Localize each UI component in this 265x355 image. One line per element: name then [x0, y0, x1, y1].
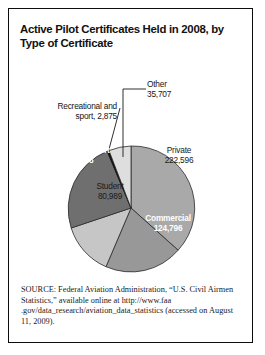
slice-label-airline-transport: Airline transport 146,838 — [33, 145, 125, 165]
pie-chart-svg — [9, 61, 251, 276]
page-title: Active Pilot Certificates Held in 2008, … — [20, 22, 242, 50]
callout-recreational-sport: Recreational and sport, 2,875 — [31, 101, 117, 121]
slice-label-commercial: Commercial 124,796 — [133, 213, 203, 233]
source-label: SOURCE: — [21, 285, 56, 294]
source-note: SOURCE: Federal Aviation Administration,… — [21, 285, 243, 327]
figure-panel: Active Pilot Certificates Held in 2008, … — [8, 8, 253, 343]
callout-other: Other 35,707 — [147, 79, 205, 99]
slice-label-private: Private 222,596 — [149, 145, 209, 165]
pie-chart: Recreational and sport, 2,875 Other 35,7… — [9, 61, 251, 276]
slice-label-student: Student 80,989 — [81, 181, 139, 201]
